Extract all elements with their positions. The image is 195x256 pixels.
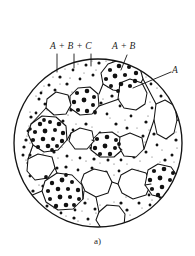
label-phase-a: A: [172, 66, 178, 76]
microstructure-drawing: [0, 0, 195, 256]
specimen-field: [10, 52, 190, 236]
label-phase-abc: A + B + C: [50, 42, 92, 52]
figure-caption: a): [0, 236, 195, 246]
label-phase-ab: A + B: [112, 42, 136, 52]
boundary-seg-15: [172, 190, 176, 200]
figure-container: A + B + C A + B A a): [0, 0, 195, 256]
boundary-seg-17: [124, 226, 128, 234]
